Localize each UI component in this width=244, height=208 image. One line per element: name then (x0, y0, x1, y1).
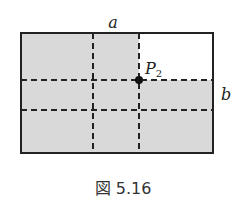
label-point-main: P (144, 59, 156, 78)
figure-caption: 図 5.16 (95, 179, 152, 198)
label-a: a (108, 13, 118, 32)
point-p2-marker (135, 76, 143, 84)
label-point-subscript: 2 (156, 68, 162, 79)
figure-diagram: a b P2 図 5.16 (0, 0, 244, 208)
label-b: b (221, 85, 231, 104)
